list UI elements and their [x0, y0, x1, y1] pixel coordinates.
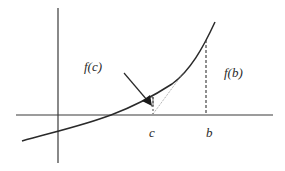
- function-curve: [22, 22, 215, 141]
- pointer-arrow-shaft: [124, 73, 147, 100]
- function-diagram: [0, 0, 285, 171]
- label-b: b: [206, 126, 213, 139]
- label-f-of-b: f(b): [224, 66, 243, 79]
- label-c: c: [149, 126, 155, 139]
- label-f-of-c: f(c): [84, 60, 102, 73]
